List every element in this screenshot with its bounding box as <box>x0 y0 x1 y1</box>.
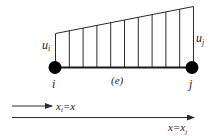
long-arrow-label: x=xj <box>167 121 187 136</box>
node-i <box>49 61 62 74</box>
u-j-label: uj <box>196 31 205 47</box>
element-label: (e) <box>111 74 124 87</box>
node-j-label: j <box>187 77 193 91</box>
node-i-label: i <box>52 77 55 91</box>
vertical-ordinates <box>56 7 194 68</box>
finite-element-diagram: ui uj i j (e) xi=x x=xj <box>0 0 213 140</box>
linear-distribution <box>56 7 194 68</box>
u-i-label: ui <box>42 38 50 53</box>
node-j <box>186 61 199 74</box>
short-arrow-label: xi=x <box>55 100 75 114</box>
